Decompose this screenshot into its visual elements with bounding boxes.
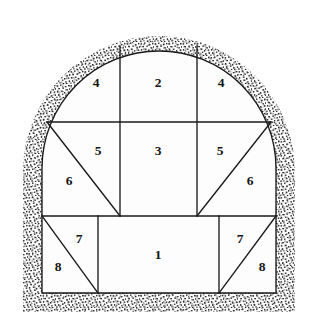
label-region-4-left: 4: [93, 75, 100, 90]
label-region-5-right: 5: [217, 143, 224, 158]
label-region-4-right: 4: [218, 75, 225, 90]
label-region-3: 3: [155, 143, 162, 158]
label-region-1: 1: [155, 247, 162, 262]
label-region-6-right: 6: [247, 173, 254, 188]
label-region-8-left: 8: [55, 259, 62, 274]
tunnel-section-drawing: 4 2 4 5 3 5 6 6 7 1 7 8 8: [0, 0, 318, 333]
label-region-2: 2: [155, 75, 162, 90]
tunnel-cross-section-figure: 4 2 4 5 3 5 6 6 7 1 7 8 8: [0, 0, 318, 333]
label-region-7-left: 7: [76, 231, 83, 246]
label-region-6-left: 6: [66, 173, 73, 188]
label-region-8-right: 8: [259, 259, 266, 274]
label-region-7-right: 7: [237, 231, 244, 246]
label-region-5-left: 5: [95, 143, 102, 158]
